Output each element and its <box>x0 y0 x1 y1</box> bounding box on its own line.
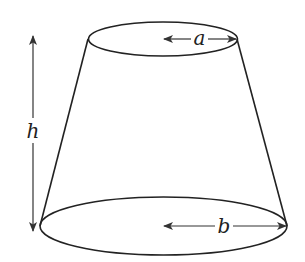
height-label: h <box>27 119 40 143</box>
left-slant-edge <box>40 39 88 226</box>
top-radius-label: a <box>194 26 206 50</box>
frustum-diagram: h a b <box>0 0 305 262</box>
diagram-canvas: h a b <box>0 0 305 262</box>
right-slant-edge <box>237 39 287 226</box>
bottom-radius-label: b <box>218 214 231 238</box>
